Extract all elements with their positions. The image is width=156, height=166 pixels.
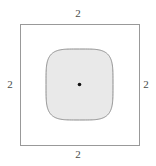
- dimension-label-left: 2: [4, 79, 16, 90]
- dimension-label-bottom: 2: [0, 149, 156, 160]
- diagram-canvas: 2 2 2 2: [0, 0, 156, 166]
- center-dot: [78, 83, 82, 87]
- dimension-label-right: 2: [140, 79, 152, 90]
- diagram-graphics: [0, 0, 156, 166]
- dimension-label-top: 2: [0, 8, 156, 19]
